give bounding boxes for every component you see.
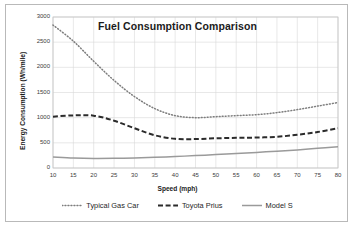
x-tick-label: 65 — [267, 172, 287, 178]
legend-label: Typical Gas Car — [86, 201, 139, 210]
x-tick-label: 35 — [145, 172, 165, 178]
legend-swatch-dashed — [158, 202, 178, 209]
legend-item-toyota-prius[interactable]: Toyota Prius — [158, 201, 223, 210]
x-tick-label: 75 — [308, 172, 328, 178]
legend-label: Toyota Prius — [182, 201, 223, 210]
legend-item-model-s[interactable]: Model S — [242, 201, 293, 210]
x-tick-label: 50 — [206, 172, 226, 178]
chart-title: Fuel Consumption Comparison — [6, 20, 349, 32]
x-tick-label: 45 — [186, 172, 206, 178]
y-tick-label: 500 — [26, 139, 50, 145]
x-tick-label: 40 — [165, 172, 185, 178]
legend-item-typical-gas-car[interactable]: Typical Gas Car — [62, 201, 139, 210]
chart-frame: Fuel Consumption Comparison Energy Consu… — [5, 4, 348, 222]
legend-swatch-solid — [242, 202, 262, 209]
x-tick-label: 15 — [63, 172, 83, 178]
x-axis-label: Speed (mph) — [6, 185, 349, 192]
x-tick-label: 20 — [84, 172, 104, 178]
x-tick-label: 30 — [124, 172, 144, 178]
y-tick-label: 1000 — [26, 114, 50, 120]
chart-legend: Typical Gas CarToyota PriusModel S — [6, 201, 349, 210]
x-tick-label: 25 — [104, 172, 124, 178]
x-tick-label: 10 — [43, 172, 63, 178]
y-tick-label: 3000 — [26, 13, 50, 19]
x-tick-label: 70 — [287, 172, 307, 178]
y-tick-label: 2500 — [26, 38, 50, 44]
x-tick-label: 60 — [247, 172, 267, 178]
x-tick-label: 55 — [226, 172, 246, 178]
x-tick-label: 80 — [328, 172, 348, 178]
grid-lines — [53, 17, 338, 168]
y-tick-label: 2000 — [26, 63, 50, 69]
y-tick-label: 1500 — [26, 89, 50, 95]
legend-label: Model S — [266, 201, 293, 210]
y-axis-label: Energy Consumption (Wh/mile) — [19, 52, 26, 150]
legend-swatch-dotted — [62, 202, 82, 209]
y-tick-label: 0 — [26, 164, 50, 170]
